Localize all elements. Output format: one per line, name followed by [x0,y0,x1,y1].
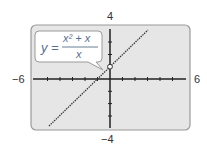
open-circle-hole [108,64,113,69]
x-min-label: −6 [12,73,25,85]
equation-numerator: x² + x [63,32,90,44]
equation-denominator: x [76,48,82,60]
x-max-label: 6 [194,73,200,85]
y-min-label: −4 [101,133,114,145]
y-max-label: 4 [107,10,113,22]
graph [0,0,207,152]
equation-lhs: y = [41,40,59,55]
